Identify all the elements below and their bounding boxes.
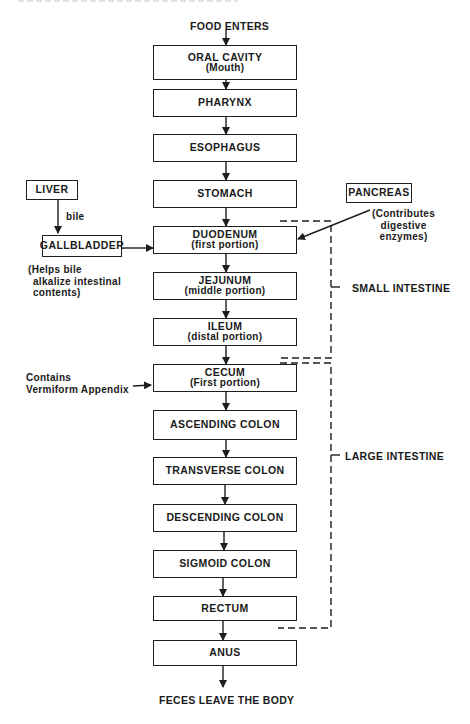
bile-label: bile — [66, 211, 84, 223]
small-intestine-label: SMALL INTESTINE — [352, 282, 450, 294]
box-stomach: STOMACH — [153, 180, 297, 208]
gallbladder-note: (Helps bile alkalize intestinal contents… — [28, 264, 121, 299]
note-line: (Contributes — [372, 208, 435, 220]
box-esophagus: ESOPHAGUS — [153, 134, 297, 162]
box-ileum: ILEUM (distal portion) — [153, 318, 297, 346]
box-liver: LIVER — [26, 180, 78, 200]
box-gallbladder: GALLBLADDER — [42, 235, 122, 257]
box-duodenum: DUODENUM (first portion) — [153, 226, 297, 254]
box-title: SIGMOID COLON — [179, 558, 271, 569]
box-title: ANUS — [209, 647, 240, 658]
box-sigmoid-colon: SIGMOID COLON — [153, 550, 297, 578]
box-jejunum: JEJUNUM (middle portion) — [153, 272, 297, 300]
box-title: PANCREAS — [348, 187, 409, 198]
box-title: PHARYNX — [198, 97, 252, 108]
box-pancreas: PANCREAS — [346, 183, 412, 203]
box-title: RECTUM — [201, 603, 248, 614]
feces-leave-label: FECES LEAVE THE BODY — [159, 694, 294, 706]
note-line: alkalize intestinal — [28, 276, 121, 288]
box-subtitle: (distal portion) — [188, 332, 263, 343]
box-title: TRANSVERSE COLON — [166, 465, 285, 476]
box-title: STOMACH — [197, 188, 253, 199]
note-line: enzymes) — [372, 231, 435, 243]
large-intestine-label: LARGE INTESTINE — [345, 450, 444, 462]
box-subtitle: (First portion) — [190, 378, 260, 389]
box-title: ESOPHAGUS — [190, 142, 261, 153]
note-line: Vermiform Appendix — [26, 384, 129, 396]
appendix-note: Contains Vermiform Appendix — [26, 372, 129, 395]
food-enters-label: FOOD ENTERS — [190, 20, 269, 32]
box-rectum: RECTUM — [153, 596, 297, 621]
box-title: ASCENDING COLON — [170, 419, 280, 430]
box-subtitle: (Mouth) — [206, 63, 245, 74]
box-anus: ANUS — [153, 640, 297, 666]
note-line: digestive — [372, 220, 435, 232]
box-oral-cavity: ORAL CAVITY (Mouth) — [153, 45, 297, 80]
box-descending-colon: DESCENDING COLON — [153, 504, 297, 532]
box-transverse-colon: TRANSVERSE COLON — [153, 457, 297, 485]
box-pharynx: PHARYNX — [153, 89, 297, 117]
note-line: contents) — [28, 287, 121, 299]
box-title: GALLBLADDER — [40, 240, 124, 251]
box-cecum: CECUM (First portion) — [153, 364, 297, 392]
box-ascending-colon: ASCENDING COLON — [153, 410, 297, 440]
box-subtitle: (middle portion) — [185, 286, 266, 297]
box-title: LIVER — [36, 184, 69, 195]
digestive-flowchart: FOOD ENTERS FECES LEAVE THE BODY ORAL CA… — [0, 0, 470, 724]
box-subtitle: (first portion) — [191, 240, 258, 251]
box-title: DESCENDING COLON — [166, 512, 283, 523]
note-line: (Helps bile — [28, 264, 121, 276]
pancreas-note: (Contributes digestive enzymes) — [372, 208, 435, 243]
note-line: Contains — [26, 372, 129, 384]
